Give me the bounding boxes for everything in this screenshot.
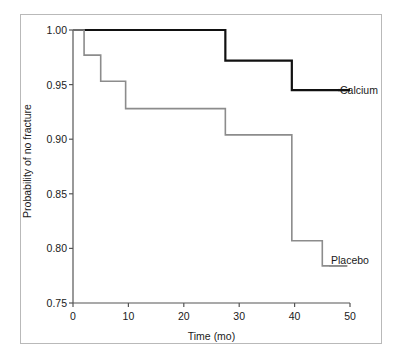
figure-container: 0.750.800.850.900.951.00 01020304050 Pro…: [0, 0, 403, 361]
y-tick-label: 0.80: [29, 243, 67, 254]
series-label-placebo: Placebo: [331, 254, 369, 266]
y-tick-label: 0.95: [29, 80, 67, 91]
x-tick-label: 10: [108, 311, 148, 322]
x-tick-label: 50: [330, 311, 370, 322]
y-tick-label: 0.85: [29, 189, 67, 200]
y-tick-label: 0.75: [29, 298, 67, 309]
x-tick-label: 0: [53, 311, 93, 322]
x-tick-label: 20: [164, 311, 204, 322]
y-tick-label: 1.00: [29, 25, 67, 36]
x-tick-label: 40: [275, 311, 315, 322]
series-label-leaders: [329, 90, 350, 266]
y-tick-label: 0.90: [29, 134, 67, 145]
series-curves: [73, 30, 350, 266]
y-axis-title: Probability of no fracture: [21, 71, 33, 251]
series-label-calcium: Calcium: [340, 84, 378, 96]
x-axis-title: Time (mo): [73, 330, 350, 342]
axis-lines: [69, 30, 350, 307]
x-tick-label: 30: [219, 311, 259, 322]
